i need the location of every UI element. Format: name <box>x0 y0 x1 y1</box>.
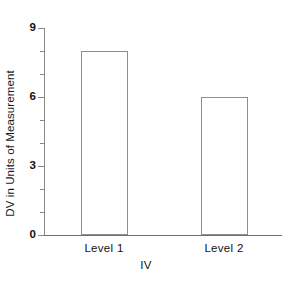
y-axis-tick-label: 6 <box>30 91 36 103</box>
x-axis-category-label: Level 2 <box>204 242 243 254</box>
bars-layer: Level 1Level 2 <box>44 26 284 237</box>
x-axis-category-label: Level 1 <box>84 242 123 254</box>
bar <box>201 97 248 235</box>
y-axis-title: DV in Units of Measurement <box>0 0 20 287</box>
bar-chart: DV in Units of Measurement 0369 Level 1L… <box>0 0 292 287</box>
y-axis-tick-label: 9 <box>30 22 36 34</box>
plot-area: 0369 Level 1Level 2 <box>44 26 284 237</box>
y-axis-tick-label: 0 <box>30 229 36 241</box>
y-axis-tick-label: 3 <box>30 160 36 172</box>
x-axis-title: IV <box>0 259 292 271</box>
bar <box>81 51 128 235</box>
